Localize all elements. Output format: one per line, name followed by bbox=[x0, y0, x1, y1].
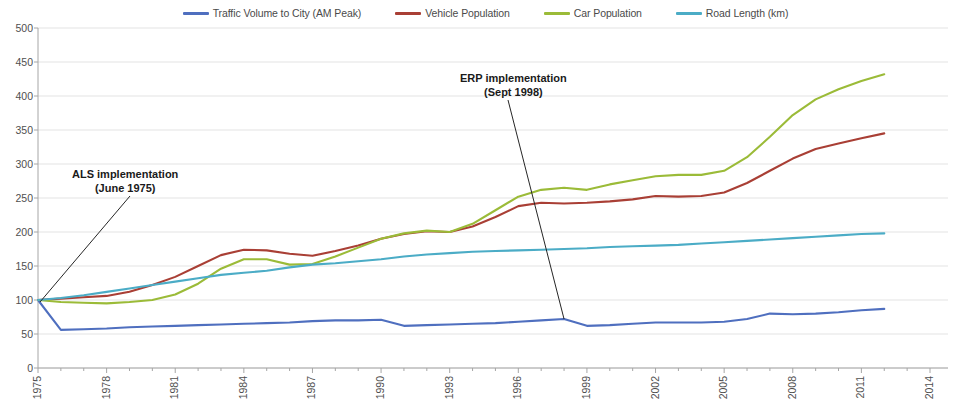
annotation-als-line1: ALS implementation bbox=[72, 168, 178, 180]
x-axis-tick-label: 1993 bbox=[444, 376, 455, 399]
x-axis-tick-label: 1975 bbox=[32, 376, 43, 399]
annotation-erp-line1: ERP implementation bbox=[460, 72, 567, 84]
chart-container: Traffic Volume to City (AM Peak)Vehicle … bbox=[0, 0, 971, 411]
x-axis-tick-label: 2002 bbox=[650, 376, 661, 399]
x-axis-tick-label: 1990 bbox=[375, 376, 386, 399]
x-axis-tick-label: 1984 bbox=[238, 376, 249, 399]
x-axis-tick-label: 1996 bbox=[512, 376, 523, 399]
annotation-erp-line2: (Sept 1998) bbox=[460, 86, 567, 100]
x-axis-tick-label: 2005 bbox=[718, 376, 729, 399]
x-axis-tick-label: 1978 bbox=[101, 376, 112, 399]
x-axis-tick-label: 1987 bbox=[306, 376, 317, 399]
x-axis-tick-label: 2011 bbox=[855, 376, 866, 399]
x-axis-labels: 1975197819811984198719901993199619992002… bbox=[0, 0, 971, 411]
annotation-als: ALS implementation (June 1975) bbox=[72, 168, 178, 196]
x-axis-tick-label: 2014 bbox=[924, 376, 935, 399]
x-axis-tick-label: 1981 bbox=[169, 376, 180, 399]
annotation-als-line2: (June 1975) bbox=[72, 182, 178, 196]
x-axis-tick-label: 1999 bbox=[581, 376, 592, 399]
x-axis-tick-label: 2008 bbox=[787, 376, 798, 399]
annotation-erp: ERP implementation (Sept 1998) bbox=[460, 72, 567, 100]
